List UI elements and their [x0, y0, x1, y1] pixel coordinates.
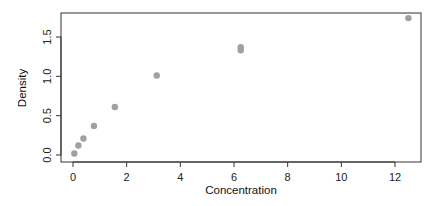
y-tick-label: 1.0	[41, 69, 53, 84]
x-tick-label: 6	[231, 171, 237, 183]
data-points	[71, 15, 411, 157]
x-tick-label: 10	[335, 171, 347, 183]
data-point	[75, 142, 81, 148]
x-tick-label: 4	[177, 171, 183, 183]
y-tick-label: 1.5	[41, 29, 53, 44]
x-axis: 024681012	[70, 162, 401, 183]
data-point	[91, 123, 97, 129]
data-point	[112, 104, 118, 110]
data-point	[80, 135, 86, 141]
y-axis: 0.00.51.01.5	[41, 29, 61, 162]
plot-frame	[61, 13, 421, 162]
x-tick-label: 12	[389, 171, 401, 183]
x-tick-label: 2	[124, 171, 130, 183]
data-point	[71, 150, 77, 156]
y-tick-label: 0.5	[41, 108, 53, 123]
data-point	[238, 44, 244, 50]
data-point	[154, 72, 160, 78]
x-axis-title: Concentration	[205, 184, 277, 196]
data-point	[405, 15, 411, 21]
scatter-plot: 024681012 0.00.51.01.5 Concentration Den…	[0, 0, 440, 206]
x-tick-label: 8	[285, 171, 291, 183]
y-axis-title: Density	[16, 69, 28, 108]
x-tick-label: 0	[70, 171, 76, 183]
y-tick-label: 0.0	[41, 147, 53, 162]
